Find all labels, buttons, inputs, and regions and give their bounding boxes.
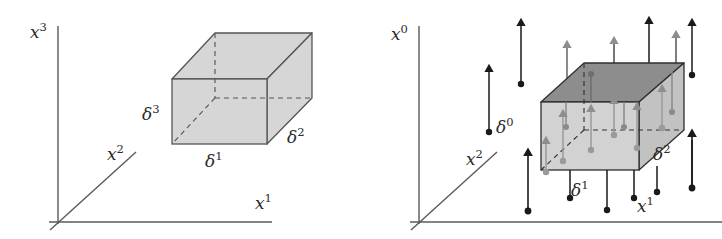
right-axis-label-x0: x0 (391, 22, 408, 44)
figure-root: x3 x2 x1 δ3 δ1 δ2 (0, 0, 722, 239)
left-delta-label-3: δ3 (142, 102, 160, 124)
arrow-vector (525, 152, 532, 214)
left-panel-canvas: x3 x2 x1 δ3 δ1 δ2 (0, 0, 361, 239)
left-axis-label-x1: x1 (255, 191, 272, 213)
right-panel-canvas: x0 x2 x1 δ0 δ1 δ2 (361, 0, 722, 239)
right-axis-label-x1: x1 (637, 194, 654, 216)
right-diagonal-axis (411, 152, 497, 230)
left-delta-label-1: δ1 (205, 149, 223, 171)
right-panel: x0 x2 x1 δ0 δ1 δ2 (361, 0, 722, 239)
right-delta-label-0: δ0 (496, 115, 514, 137)
left-axis-label-x2: x2 (107, 142, 124, 164)
left-cell-front-face (172, 79, 267, 144)
right-delta-label-2: δ2 (653, 142, 671, 164)
arrow-vector (689, 22, 695, 78)
right-delta-label-1: δ1 (571, 178, 589, 200)
arrow-vector (486, 68, 492, 135)
left-axis-label-x3: x3 (30, 20, 47, 42)
arrow-vector (518, 22, 524, 87)
left-panel: x3 x2 x1 δ3 δ1 δ2 (0, 0, 361, 239)
arrow-vector (654, 166, 660, 195)
left-diagonal-axis (50, 152, 136, 230)
left-delta-label-2: δ2 (287, 125, 305, 147)
right-axis-label-x2: x2 (466, 147, 483, 169)
arrow-vector (604, 170, 610, 213)
